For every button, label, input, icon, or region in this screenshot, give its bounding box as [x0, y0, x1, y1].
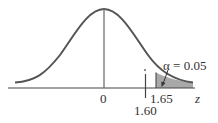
label-zero: 0 — [100, 91, 107, 106]
label-alpha: α = 0.05 — [163, 58, 206, 73]
label-observed: 1.60 — [134, 103, 157, 118]
label-axis-z: z — [194, 91, 200, 106]
normal-curve-chart: 0 1.65 1.60 α = 0.05 z — [0, 0, 218, 123]
observed-marker-dot — [144, 69, 146, 71]
